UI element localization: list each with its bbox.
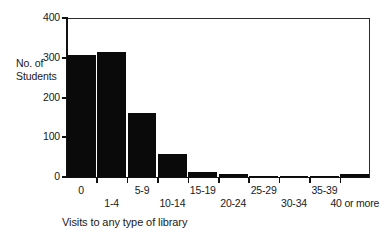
bar — [128, 113, 157, 177]
y-tick-label: 200 — [20, 92, 60, 103]
x-tick-label: 30-34 — [281, 198, 307, 209]
y-tick-label: 400 — [20, 12, 60, 23]
bar — [310, 176, 339, 177]
bar — [219, 174, 248, 177]
bar — [67, 55, 96, 177]
x-tick — [157, 178, 159, 183]
x-tick-label: 25-29 — [251, 185, 277, 196]
x-tick — [279, 178, 281, 183]
x-tick — [188, 178, 190, 183]
y-tick-label-wrap: 300 — [18, 52, 60, 64]
y-axis-title-line2: Students — [16, 70, 64, 83]
y-tick-label: 100 — [20, 131, 60, 142]
bar — [188, 172, 217, 177]
x-tick-label: 20-24 — [220, 198, 246, 209]
bar — [158, 154, 187, 177]
y-tick-label: 0 — [20, 171, 60, 182]
bar-chart: No. of Students 4003002001000 01-45-910-… — [0, 0, 392, 241]
x-tick — [309, 178, 311, 183]
x-tick-label: 5-9 — [135, 185, 150, 196]
x-tick — [218, 178, 220, 183]
x-tick-label: 35-39 — [311, 185, 337, 196]
y-tick-label-wrap: 100 — [18, 131, 60, 143]
x-tick-label: 10-14 — [159, 198, 185, 209]
y-tick-label-wrap: 200 — [18, 92, 60, 104]
x-tick — [340, 178, 342, 183]
x-tick-label: 40 or more — [330, 198, 379, 209]
bar — [280, 176, 309, 177]
x-tick — [127, 178, 129, 183]
y-tick-label-wrap: 400 — [18, 12, 60, 24]
bars-layer — [66, 18, 370, 177]
y-tick-label: 300 — [20, 52, 60, 63]
bar — [249, 176, 278, 177]
x-tick-label: 0 — [78, 185, 84, 196]
x-tick — [96, 178, 98, 183]
bar — [97, 52, 126, 177]
bar — [340, 174, 369, 177]
x-tick — [248, 178, 250, 183]
y-tick-label-wrap: 0 — [18, 171, 60, 183]
x-tick-label: 1-4 — [104, 198, 119, 209]
x-axis-title: Visits to any type of library — [62, 216, 187, 229]
x-tick-label: 15-19 — [190, 185, 216, 196]
